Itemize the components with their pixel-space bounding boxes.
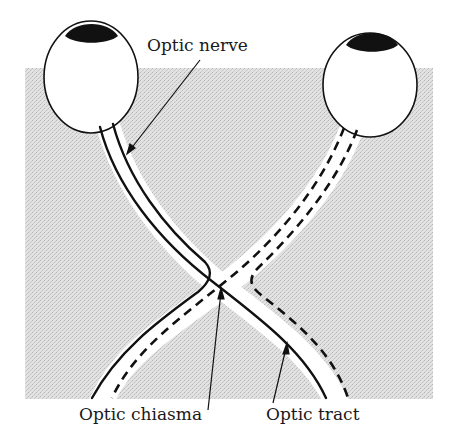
optic-chiasma-diagram: Optic nerve Optic chiasma Optic tract [0,0,456,446]
right-eyeball [323,33,417,137]
label-optic-nerve: Optic nerve [147,35,248,55]
label-optic-tract: Optic tract [266,404,360,424]
left-eyeball [44,21,138,133]
label-optic-chiasma: Optic chiasma [79,404,202,424]
bottom-white-strip [0,399,456,446]
